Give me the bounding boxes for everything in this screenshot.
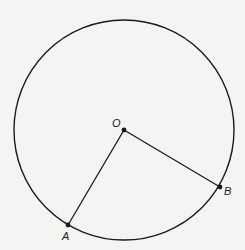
circle-diagram: O A B [0, 0, 245, 250]
point-O [122, 128, 127, 133]
radius-OB [124, 130, 220, 187]
label-B: B [224, 185, 231, 197]
label-O: O [112, 117, 121, 129]
diagram-canvas: O A B [0, 0, 245, 250]
point-B [218, 185, 223, 190]
point-A [66, 223, 71, 228]
label-A: A [61, 230, 69, 242]
radius-OA [68, 130, 124, 225]
